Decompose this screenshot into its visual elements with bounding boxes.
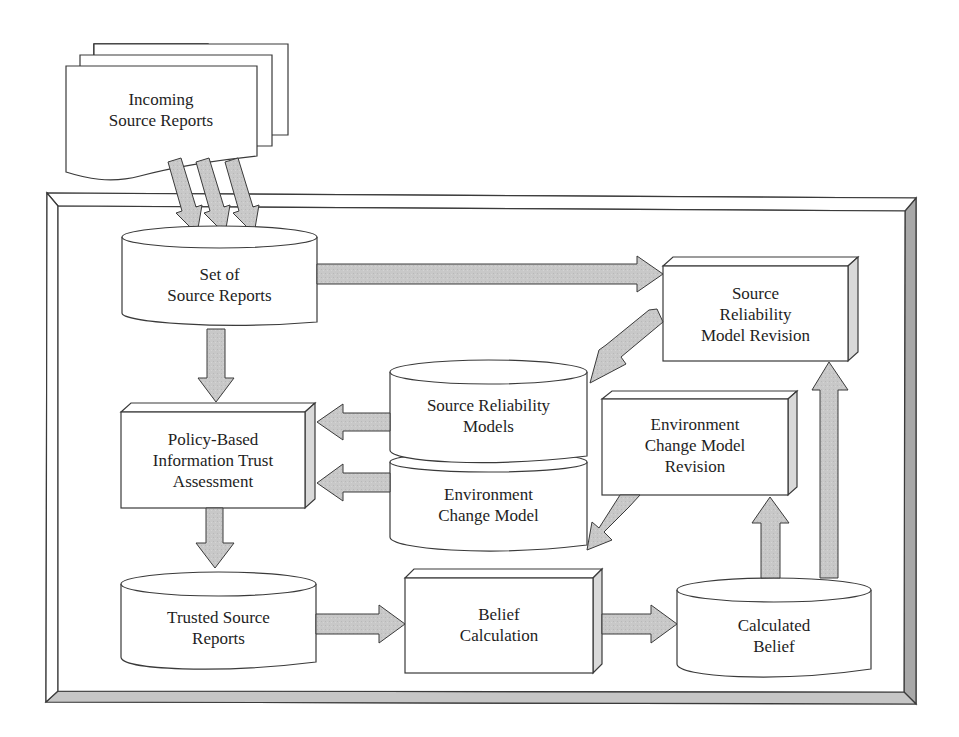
- label-policy-based-trust-assessment: Policy-Based Information Trust Assessmen…: [121, 412, 305, 508]
- label-set-of-source-reports: Set of Source Reports: [122, 255, 317, 315]
- label-environment-change-model: Environment Change Model: [390, 474, 587, 536]
- label-environment-change-model-revision: Environment Change Model Revision: [602, 399, 788, 491]
- label-source-reliability-models: Source Reliability Models: [390, 388, 587, 444]
- label-incoming-source-reports: Incoming Source Reports: [66, 80, 256, 140]
- label-source-reliability-model-revision: Source Reliability Model Revision: [663, 268, 848, 360]
- label-trusted-source-reports: Trusted Source Reports: [121, 596, 316, 660]
- label-calculated-belief: Calculated Belief: [677, 604, 871, 668]
- label-belief-calculation: Belief Calculation: [405, 580, 593, 670]
